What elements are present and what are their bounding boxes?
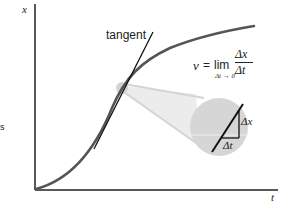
x-axis-label: t [271, 192, 274, 203]
formula-lim: lim [214, 59, 229, 71]
delta-x-label: Δx [241, 116, 252, 127]
y-axis-label: x [22, 4, 27, 15]
side-label: s [0, 123, 5, 132]
formula-lhs: v [193, 59, 199, 72]
tangent-label: tangent [106, 29, 146, 41]
formula-subscript: Δt → 0 [215, 73, 235, 80]
formula-denominator: Δt [235, 64, 245, 76]
delta-t-label: Δt [223, 140, 233, 151]
formula-equals: = [203, 59, 210, 71]
formula-numerator: Δx [235, 48, 247, 60]
